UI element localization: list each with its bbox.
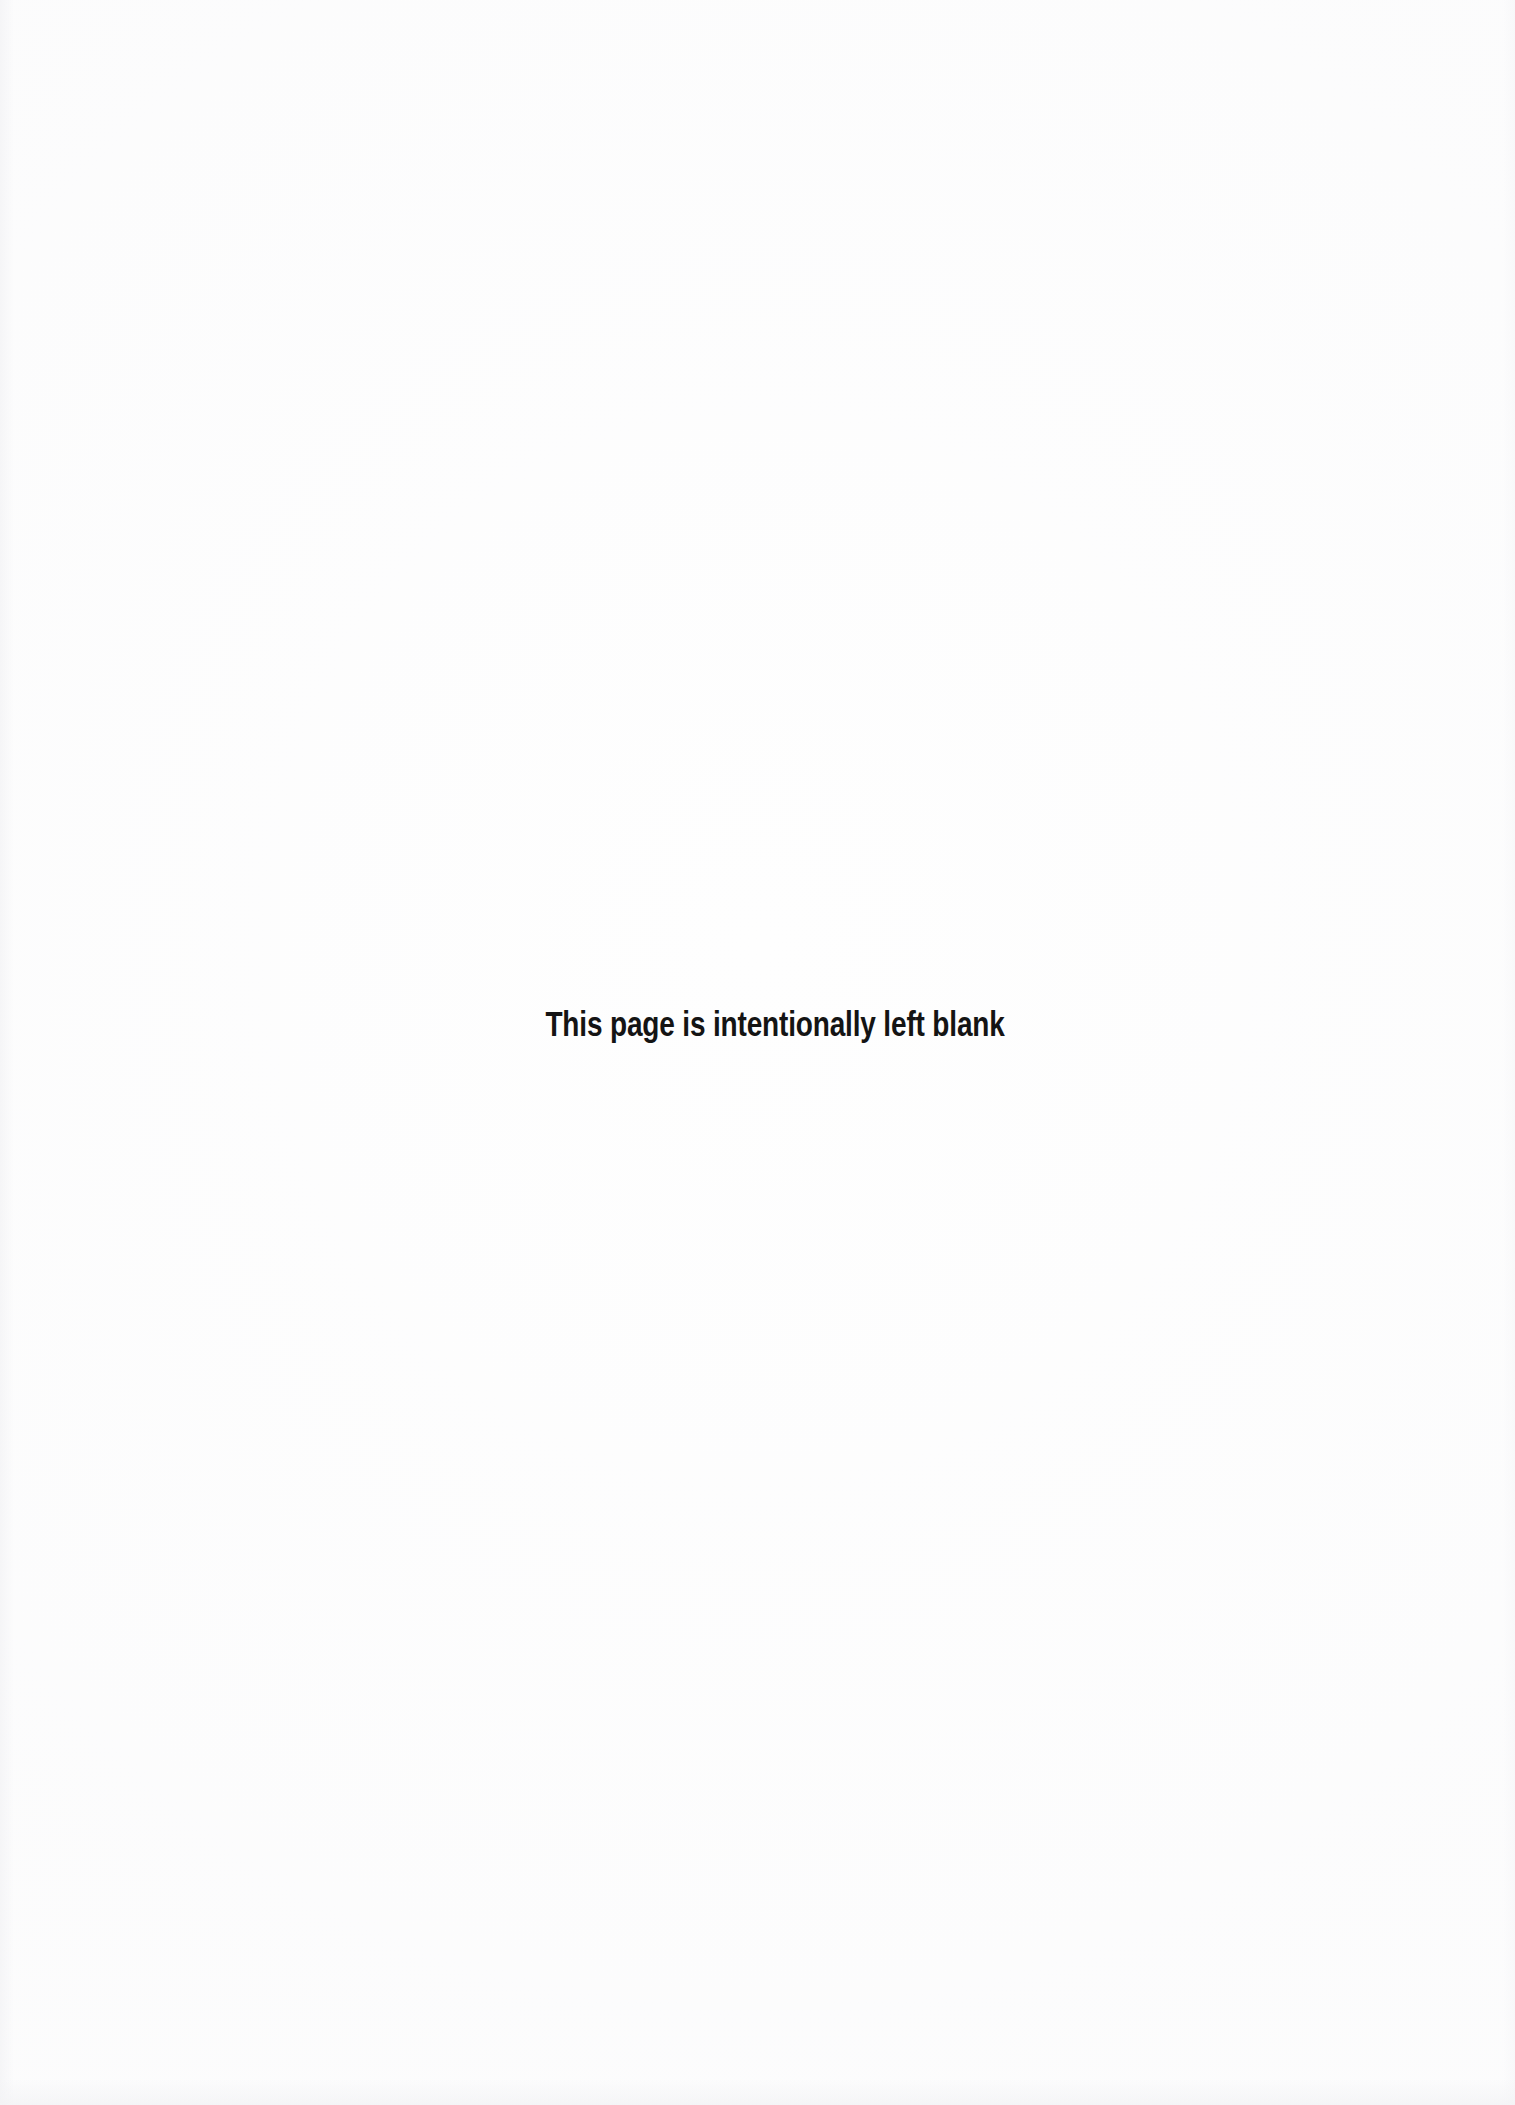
scan-edge-shadow-left bbox=[0, 0, 14, 2105]
scan-edge-shadow-right bbox=[1503, 0, 1515, 2105]
scan-edge-shadow-bottom bbox=[0, 2079, 1515, 2105]
blank-page-notice-text: This page is intentionally left blank bbox=[546, 1002, 1005, 1046]
blank-page-notice: This page is intentionally left blank bbox=[0, 1002, 1515, 1046]
paper-texture-overlay bbox=[0, 0, 1515, 2105]
document-page: This page is intentionally left blank bbox=[0, 0, 1515, 2105]
